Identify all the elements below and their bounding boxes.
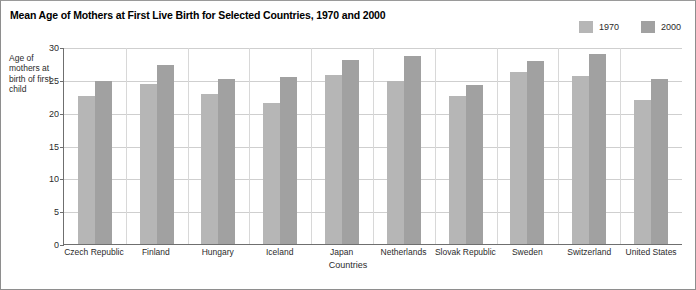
y-axis-tick-mark	[60, 245, 64, 246]
plot-frame: 051015202530	[63, 48, 682, 245]
plot-area: 051015202530	[63, 48, 682, 245]
x-axis-label: Iceland	[249, 247, 311, 257]
bar-2000	[466, 85, 483, 244]
bar-1970	[325, 75, 342, 244]
y-axis-tick-label: 0	[54, 240, 59, 250]
x-axis-label: Switzerland	[558, 247, 620, 257]
legend-label-2000: 2000	[661, 22, 681, 32]
chart-legend: 1970 2000	[579, 21, 681, 33]
bar-1970	[634, 100, 651, 244]
bar-2000	[342, 60, 359, 244]
bar-group	[249, 48, 311, 244]
legend-swatch-2000	[641, 21, 655, 33]
bar-1970	[201, 94, 218, 244]
footer-caption	[13, 280, 683, 288]
bar-2000	[95, 81, 112, 245]
bar-2000	[280, 77, 297, 244]
x-axis-label: Slovak Republic	[434, 247, 496, 257]
y-axis-tick-label: 15	[49, 142, 59, 152]
bar-group	[558, 48, 620, 244]
bar-group	[435, 48, 497, 244]
y-axis-tick-label: 30	[49, 43, 59, 53]
legend-swatch-1970	[579, 21, 593, 33]
bar-group	[497, 48, 559, 244]
bar-group	[126, 48, 188, 244]
x-axis-title: Countries	[1, 260, 695, 270]
bar-1970	[572, 76, 589, 244]
bar-1970	[140, 84, 157, 244]
bar-1970	[449, 96, 466, 244]
x-axis-label: Netherlands	[373, 247, 435, 257]
bar-group	[620, 48, 682, 244]
bar-2000	[218, 79, 235, 244]
bar-2000	[404, 56, 421, 244]
legend-item-2000: 2000	[641, 21, 681, 33]
bar-group	[188, 48, 250, 244]
x-axis-label: United States	[620, 247, 682, 257]
y-axis-tick-label: 5	[54, 207, 59, 217]
bar-groups	[64, 48, 682, 244]
x-axis-labels: Czech RepublicFinlandHungaryIcelandJapan…	[63, 247, 682, 257]
bar-2000	[651, 79, 668, 244]
x-axis-label: Hungary	[187, 247, 249, 257]
bar-2000	[157, 65, 174, 244]
page-title: Mean Age of Mothers at First Live Birth …	[10, 9, 386, 21]
legend-label-1970: 1970	[599, 22, 619, 32]
y-axis-tick-label: 25	[49, 76, 59, 86]
chart-page: Mean Age of Mothers at First Live Birth …	[0, 0, 696, 290]
bar-1970	[510, 72, 527, 244]
x-axis-label: Czech Republic	[63, 247, 125, 257]
bar-2000	[589, 54, 606, 244]
y-axis-tick-label: 20	[49, 109, 59, 119]
x-axis-label: Japan	[311, 247, 373, 257]
y-axis-tick-label: 10	[49, 174, 59, 184]
bar-group	[373, 48, 435, 244]
bar-1970	[263, 103, 280, 244]
bar-group	[64, 48, 126, 244]
bar-group	[311, 48, 373, 244]
bar-1970	[78, 96, 95, 244]
bar-1970	[387, 81, 404, 245]
legend-item-1970: 1970	[579, 21, 619, 33]
y-axis-title: Age of mothers at birth of first child	[9, 53, 57, 95]
bar-2000	[527, 61, 544, 244]
x-axis-label: Sweden	[496, 247, 558, 257]
x-axis-label: Finland	[125, 247, 187, 257]
